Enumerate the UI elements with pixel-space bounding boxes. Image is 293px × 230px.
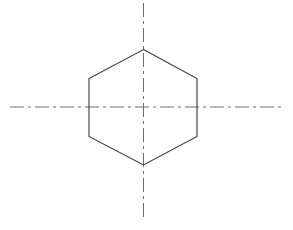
drawing-svg [0,0,293,230]
technical-drawing-canvas [0,0,293,230]
